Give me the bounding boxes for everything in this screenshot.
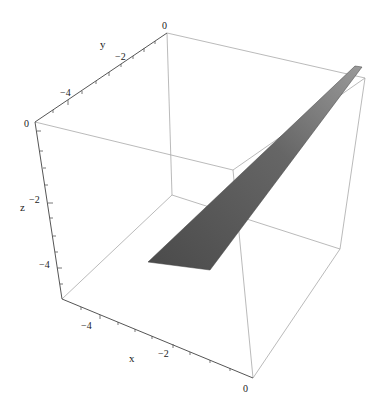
x-axis-label: x — [129, 352, 135, 364]
x-axis — [62, 299, 253, 378]
box-edge-top-back — [167, 33, 365, 78]
z-axis — [35, 122, 63, 299]
z-axis-line — [35, 122, 62, 299]
z-tick-label: −4 — [39, 259, 50, 270]
y-tick-labels: −2 −4 0 — [60, 20, 167, 98]
box-edge-right-vertical — [340, 78, 365, 249]
z-tick-label: 0 — [24, 118, 29, 129]
plot-3d: −2 −4 0 0 −2 −4 −4 −2 0 y z x — [0, 0, 378, 413]
y-tick-label: −2 — [115, 51, 126, 62]
box-edge-bottom-right-front — [253, 249, 340, 378]
y-tick-label: −4 — [60, 87, 71, 98]
x-tick-label: −2 — [158, 348, 169, 359]
box-edge-top-left-front — [35, 122, 233, 170]
box-edge-back-vertical — [167, 33, 172, 195]
z-tick-label: −2 — [29, 194, 40, 205]
surface-polygon — [148, 66, 362, 270]
box-edge-bottom-back-left — [62, 195, 172, 299]
y-tick-label: 0 — [162, 20, 167, 31]
y-axis-label: y — [100, 38, 106, 50]
x-tick-labels: −4 −2 0 — [81, 320, 248, 394]
x-axis-line — [62, 299, 253, 378]
x-tick-label: 0 — [243, 383, 248, 394]
surface-strip — [148, 66, 362, 270]
x-tick-label: −4 — [81, 320, 92, 331]
z-axis-label: z — [20, 201, 25, 213]
